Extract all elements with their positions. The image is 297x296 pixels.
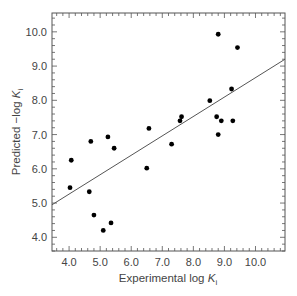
y-tick-label: 9.0 — [32, 60, 47, 72]
y-tick-label: 7.0 — [32, 129, 47, 141]
data-point — [229, 87, 234, 92]
y-tick-label: 10.0 — [26, 26, 47, 38]
data-point — [147, 126, 152, 131]
x-tick-label: 8.0 — [186, 256, 201, 268]
x-tick-label: 4.0 — [61, 256, 76, 268]
scatter-chart: 4.05.06.07.08.09.010.0 4.05.06.07.08.09.… — [0, 0, 297, 296]
x-tick-label: 5.0 — [93, 256, 108, 268]
y-tick-label: 5.0 — [32, 197, 47, 209]
x-axis-tick-labels: 4.05.06.07.08.09.010.0 — [61, 256, 266, 268]
data-point — [169, 142, 174, 147]
data-point — [101, 228, 106, 233]
data-point — [219, 118, 224, 123]
data-point — [87, 189, 92, 194]
data-point — [230, 118, 235, 123]
data-point — [216, 32, 221, 37]
data-point — [68, 185, 73, 190]
x-axis-label: Experimental log Ki — [119, 272, 218, 287]
data-point — [179, 114, 184, 119]
x-tick-label: 7.0 — [155, 256, 170, 268]
data-point — [106, 135, 111, 140]
data-point — [216, 132, 221, 137]
data-point — [178, 118, 183, 123]
y-axis-label: Predicted −log Ki — [10, 89, 25, 176]
data-point — [112, 146, 117, 151]
data-point — [88, 139, 93, 144]
y-axis-tick-labels: 4.05.06.07.08.09.010.0 — [26, 26, 47, 243]
y-axis-ticks — [52, 18, 285, 251]
x-tick-label: 9.0 — [217, 256, 232, 268]
data-point — [109, 221, 114, 226]
data-point — [69, 158, 74, 163]
x-tick-label: 10.0 — [245, 256, 266, 268]
x-tick-label: 6.0 — [124, 256, 139, 268]
regression-line — [52, 59, 285, 205]
y-tick-label: 8.0 — [32, 94, 47, 106]
data-point — [214, 114, 219, 119]
data-point — [144, 166, 149, 171]
data-point — [92, 213, 97, 218]
data-points — [68, 32, 240, 233]
y-tick-label: 6.0 — [32, 163, 47, 175]
y-tick-label: 4.0 — [32, 231, 47, 243]
data-point — [235, 45, 240, 50]
regression-line-path — [52, 59, 285, 205]
data-point — [207, 98, 212, 103]
